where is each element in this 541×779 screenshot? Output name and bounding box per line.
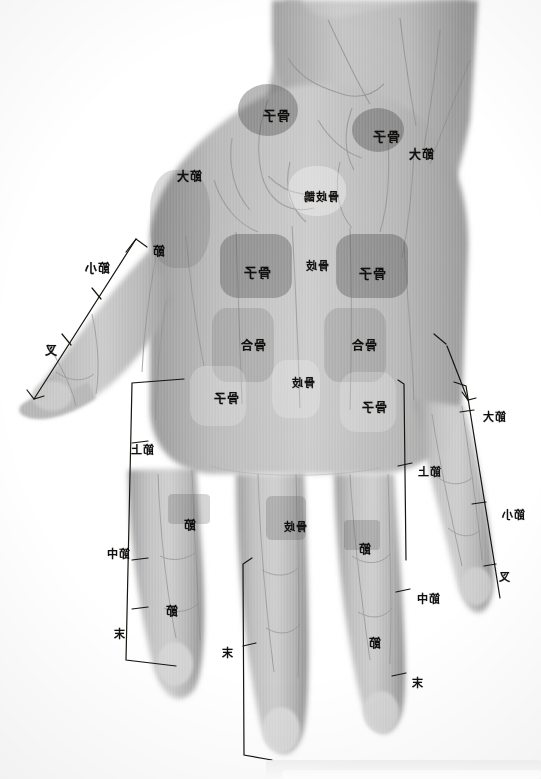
plate-bottom-inner-edge xyxy=(282,770,541,779)
radiograph-plate: 骨子骨子節大骨歧鵲節骨子骨歧骨子骨合骨合骨子骨歧骨子節骨歧節節節節小叉節上節中末… xyxy=(0,0,541,779)
annotation-brackets xyxy=(0,0,541,779)
